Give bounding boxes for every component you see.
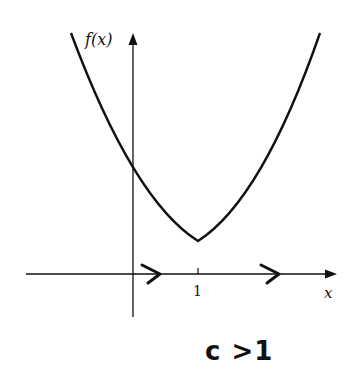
y-axis-label: f(x): [85, 30, 112, 49]
parabola-diagram: [0, 0, 358, 384]
condition-caption: c >1: [205, 336, 273, 366]
y-axis-arrowhead: [129, 33, 138, 45]
tick-label-1: 1: [193, 283, 202, 299]
x-axis-arrowhead: [325, 270, 337, 279]
x-axis-label: x: [324, 284, 332, 302]
parabola-curve: [71, 33, 320, 241]
